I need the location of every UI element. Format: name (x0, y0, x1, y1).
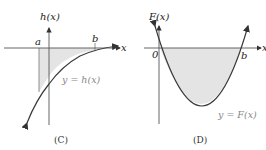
caption-d: (D) (193, 135, 207, 145)
y-axis-label-d: F(x) (148, 11, 169, 22)
x-axis-label-d: x (262, 42, 266, 53)
origin-label-d: 0 (152, 49, 159, 60)
caption-c: (C) (54, 135, 68, 145)
panel-c: h(x) x a b y = h(x) (C) (4, 11, 127, 145)
shaded-area-d (160, 48, 241, 104)
panel-d: F(x) x 0 b y = F(x) (D) (144, 11, 266, 145)
point-b-label-c: b (92, 33, 98, 44)
curve-label-f: y = F(x) (217, 109, 257, 120)
y-axis-label-c: h(x) (40, 11, 60, 22)
x-axis-label-c: x (121, 42, 127, 53)
point-a-label: a (35, 36, 41, 47)
curve-label-h: y = h(x) (61, 74, 101, 85)
diagram-canvas: h(x) x a b y = h(x) (C) F(x) x 0 b y = F… (0, 0, 266, 150)
point-b-label-d: b (241, 50, 247, 61)
